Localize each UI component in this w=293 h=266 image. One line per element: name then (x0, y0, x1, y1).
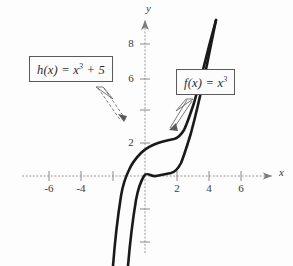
callout-h-suffix: + 5 (83, 63, 105, 77)
x-tick-label-4: 4 (200, 182, 218, 194)
plot-canvas (0, 0, 293, 266)
callout-h-prefix: h(x) = x (37, 63, 79, 77)
y-tick-label-6: 6 (122, 72, 140, 84)
x-tick-label-2: 2 (168, 182, 186, 194)
callout-f-prefix: f(x) = x (184, 76, 223, 90)
y-axis (141, 20, 149, 253)
callout-label-f: f(x) = x3 (176, 69, 235, 95)
x-tick-label-neg6: -6 (40, 182, 58, 194)
callout-f-exponent: 3 (223, 75, 227, 84)
x-axis-label: x (279, 166, 284, 178)
x-tick-label-neg4: -4 (72, 182, 90, 194)
x-tick-label-6: 6 (232, 182, 250, 194)
graph-figure: y x -6 -4 2 4 6 8 6 2 h(x) = x3 + 5 f(x)… (0, 0, 293, 266)
callout-label-h: h(x) = x3 + 5 (29, 56, 113, 82)
y-tick-label-8: 8 (122, 37, 140, 49)
y-axis-label: y (146, 2, 151, 14)
y-tick-label-2: 2 (122, 136, 140, 148)
